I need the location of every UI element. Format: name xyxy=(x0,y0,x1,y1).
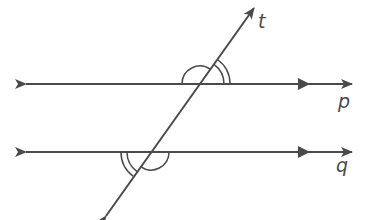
double-arc-q-inner xyxy=(127,152,137,172)
label-t: t xyxy=(258,12,265,31)
angle-arcs-q xyxy=(121,152,169,177)
parallel-mark-q xyxy=(298,146,310,158)
line-q xyxy=(26,146,352,158)
line-p xyxy=(26,78,352,90)
diagram-figure xyxy=(0,0,368,220)
transversal-t xyxy=(106,8,254,216)
double-arc-p-inner xyxy=(214,64,224,84)
label-p: p xyxy=(338,92,350,111)
diagram-canvas: t p q xyxy=(0,0,368,220)
parallel-mark-p xyxy=(298,78,310,90)
angle-arcs-p xyxy=(182,60,230,85)
label-q: q xyxy=(336,156,348,175)
